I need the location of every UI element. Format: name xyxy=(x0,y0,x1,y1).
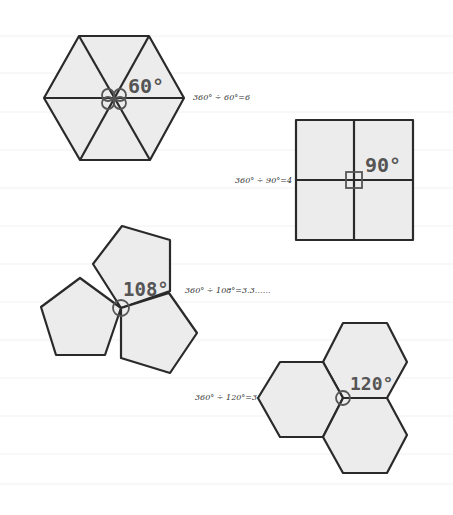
hexagons-figure: 120° xyxy=(258,323,407,473)
equation-hexagon-triangles: 360° ÷ 60°=6 xyxy=(193,93,250,102)
tessellation-diagram: 60° 90° 108° 120° xyxy=(0,0,453,515)
hexagon-triangles-figure: 60° xyxy=(44,36,184,160)
angle-label-90: 90° xyxy=(365,153,401,177)
pentagons-figure: 108° xyxy=(41,226,197,373)
angle-label-120: 120° xyxy=(350,373,393,394)
equation-squares: 360° ÷ 90°=4 xyxy=(235,176,292,185)
equation-hexagons: 360° ÷ 120°=3 xyxy=(195,393,257,402)
equation-pentagons: 360° ÷ 108°=3.3…… xyxy=(185,286,271,295)
angle-label-60: 60° xyxy=(128,74,164,98)
square-grid-figure: 90° xyxy=(296,120,413,240)
pentagon-right xyxy=(121,293,197,373)
angle-label-108: 108° xyxy=(123,278,169,300)
